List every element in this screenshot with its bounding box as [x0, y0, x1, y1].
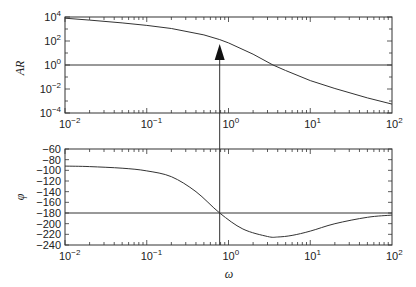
phase-curve [65, 166, 392, 237]
phase-tick-label: −240 [36, 239, 61, 251]
ar-axis-label: AR [13, 60, 27, 76]
omega-axis-label: ω [225, 267, 233, 281]
ar-tick-label: 104 [44, 9, 61, 23]
ar-tick-label: 102 [44, 33, 61, 47]
x-tick-label-ar: 10−2 [59, 116, 81, 130]
x-tick-label-phase: 10−1 [141, 248, 163, 262]
bode-plot: 10410210010−210−410−210−1100101102AR−60−… [0, 0, 416, 287]
x-tick-label-phase: 100 [223, 248, 240, 262]
arrow-up-icon [215, 44, 225, 60]
x-tick-label-phase: 10−2 [59, 248, 81, 262]
ar-tick-label: 100 [44, 57, 61, 71]
phase-axis-label: φ [13, 193, 27, 200]
x-tick-label-phase: 102 [386, 248, 403, 262]
x-tick-label-ar: 10−1 [141, 116, 163, 130]
phase-plot-frame [65, 149, 392, 245]
ar-tick-label: 10−4 [40, 105, 62, 119]
x-tick-label-ar: 101 [304, 116, 321, 130]
x-tick-label-ar: 100 [223, 116, 240, 130]
x-tick-label-ar: 102 [386, 116, 403, 130]
x-tick-label-phase: 101 [304, 248, 321, 262]
ar-curve [65, 18, 392, 104]
ar-tick-label: 10−2 [40, 81, 62, 95]
